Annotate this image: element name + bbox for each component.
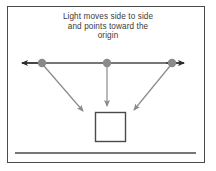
center-light-source-dot [103, 59, 111, 67]
light-rays [44, 66, 170, 111]
right-light-source-dot [168, 59, 176, 67]
right-ray [134, 66, 170, 110]
origin-square [96, 113, 126, 142]
left-light-source-dot [38, 59, 46, 67]
figure-root: Light moves side to side and points towa… [0, 0, 216, 171]
diagram-canvas [0, 0, 216, 171]
left-ray [44, 66, 83, 111]
